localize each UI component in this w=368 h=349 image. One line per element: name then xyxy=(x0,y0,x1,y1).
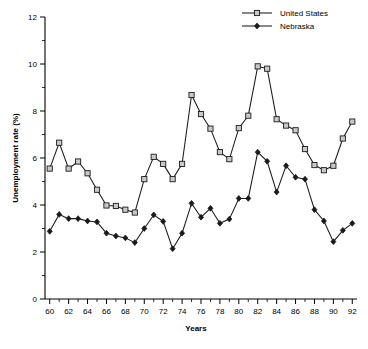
legend-label-united-states: United States xyxy=(280,9,328,18)
data-point-united-states xyxy=(189,92,194,97)
data-point-united-states xyxy=(255,64,260,69)
data-point-nebraska xyxy=(85,218,90,224)
data-point-united-states xyxy=(236,126,241,131)
x-axis-tick-label: 72 xyxy=(159,307,168,316)
unemployment-rate-chart: 0246810126062646668707274767880828486889… xyxy=(0,0,368,349)
data-point-nebraska xyxy=(57,212,62,218)
y-axis-tick-label: 0 xyxy=(33,295,38,304)
data-point-united-states xyxy=(75,159,80,164)
data-point-united-states xyxy=(340,136,345,141)
data-point-united-states xyxy=(113,203,118,208)
y-axis-tick-label: 10 xyxy=(28,60,37,69)
data-point-united-states xyxy=(293,128,298,133)
data-point-united-states xyxy=(66,166,71,171)
data-point-united-states xyxy=(57,140,62,145)
y-axis-tick-label: 2 xyxy=(33,248,38,257)
x-axis-tick-label: 90 xyxy=(329,307,338,316)
data-point-nebraska xyxy=(47,228,52,234)
data-point-united-states xyxy=(350,119,355,124)
data-point-nebraska xyxy=(66,216,71,222)
data-point-united-states xyxy=(217,150,222,155)
x-axis-tick-label: 60 xyxy=(45,307,54,316)
legend-label-nebraska: Nebraska xyxy=(280,22,315,31)
chart-canvas: 0246810126062646668707274767880828486889… xyxy=(0,0,368,349)
x-axis-tick-label: 82 xyxy=(253,307,262,316)
y-axis-tick-label: 6 xyxy=(33,154,38,163)
x-axis-tick-label: 88 xyxy=(310,307,319,316)
x-axis-tick-label: 70 xyxy=(140,307,149,316)
data-point-united-states xyxy=(142,177,147,182)
legend-marker-united-states xyxy=(254,10,259,15)
data-point-united-states xyxy=(283,123,288,128)
data-point-nebraska xyxy=(246,196,251,202)
y-axis-tick-label: 12 xyxy=(28,13,37,22)
y-axis-title: Unemployment rate (%) xyxy=(11,113,20,203)
data-point-nebraska xyxy=(113,233,118,239)
data-point-united-states xyxy=(179,161,184,166)
data-point-united-states xyxy=(170,177,175,182)
y-axis-tick-label: 8 xyxy=(33,107,38,116)
x-axis-tick-label: 80 xyxy=(234,307,243,316)
data-point-nebraska xyxy=(303,176,308,182)
data-point-nebraska xyxy=(76,216,81,222)
x-axis-tick-label: 66 xyxy=(102,307,111,316)
data-point-united-states xyxy=(151,154,156,159)
x-axis-tick-label: 86 xyxy=(291,307,300,316)
data-point-united-states xyxy=(246,113,251,118)
x-axis-tick-label: 84 xyxy=(272,307,281,316)
data-point-united-states xyxy=(312,162,317,167)
data-point-united-states xyxy=(321,168,326,173)
data-point-united-states xyxy=(47,166,52,171)
data-point-united-states xyxy=(198,111,203,116)
data-point-united-states xyxy=(85,171,90,176)
data-point-nebraska xyxy=(274,189,279,195)
x-axis-tick-label: 78 xyxy=(215,307,224,316)
data-point-united-states xyxy=(274,117,279,122)
y-axis-tick-label: 4 xyxy=(33,201,38,210)
x-axis-tick-label: 74 xyxy=(178,307,187,316)
data-point-united-states xyxy=(208,126,213,131)
data-point-nebraska xyxy=(350,220,355,226)
x-axis-tick-label: 64 xyxy=(83,307,92,316)
x-axis-tick-label: 76 xyxy=(197,307,206,316)
data-point-united-states xyxy=(265,66,270,71)
data-point-nebraska xyxy=(227,216,232,222)
legend-marker-nebraska xyxy=(255,23,260,29)
data-point-nebraska xyxy=(123,235,128,241)
data-point-nebraska xyxy=(236,196,241,202)
data-point-united-states xyxy=(331,163,336,168)
x-axis-tick-label: 62 xyxy=(64,307,73,316)
data-point-nebraska xyxy=(161,219,166,225)
x-axis-tick-label: 92 xyxy=(348,307,357,316)
data-point-united-states xyxy=(227,157,232,162)
data-point-united-states xyxy=(94,187,99,192)
data-point-united-states xyxy=(161,161,166,166)
data-point-united-states xyxy=(104,203,109,208)
data-point-united-states xyxy=(123,207,128,212)
x-axis-title: Years xyxy=(185,324,207,333)
series-line-nebraska xyxy=(50,152,353,249)
data-point-united-states xyxy=(302,146,307,151)
data-point-united-states xyxy=(132,210,137,215)
x-axis-tick-label: 68 xyxy=(121,307,130,316)
